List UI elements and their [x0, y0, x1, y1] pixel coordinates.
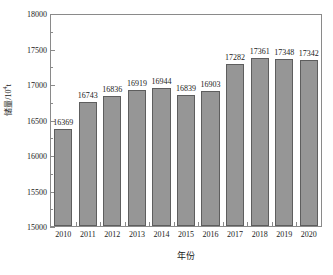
bar-value-label: 16836: [102, 85, 122, 94]
bar-group: 16836: [100, 15, 125, 226]
x-axis-tick-label: 2016: [191, 230, 231, 239]
y-axis-tick-label: 18000: [0, 10, 47, 19]
bar: [201, 91, 219, 226]
bar-value-label: 16944: [151, 77, 171, 86]
x-axis-tick-label: 2012: [92, 230, 132, 239]
y-axis-title: 储量/104t: [5, 65, 13, 135]
x-axis-title: 年份: [50, 249, 322, 262]
bar-group: 17342: [296, 15, 321, 226]
bar: [79, 102, 97, 226]
x-axis-tick-label: 2017: [215, 230, 255, 239]
bar: [128, 90, 146, 226]
x-axis-tick-label: 2011: [68, 230, 108, 239]
x-axis-tick-label: 2014: [141, 230, 181, 239]
x-axis-tick-label: 2013: [117, 230, 157, 239]
bars-layer: 1636916743168361691916944168391690317282…: [51, 15, 321, 226]
bar-group: 16944: [149, 15, 174, 226]
bar-value-label: 16369: [53, 118, 73, 127]
bar-value-label: 17342: [299, 49, 319, 58]
bar-value-label: 16839: [176, 84, 196, 93]
y-axis-tick-label: 16000: [0, 152, 47, 161]
bar-value-label: 16903: [201, 80, 221, 89]
x-axis-tick-label: 2015: [166, 230, 206, 239]
bar-value-label: 17282: [225, 53, 245, 62]
x-axis-tick-label: 2018: [240, 230, 280, 239]
bar: [251, 58, 269, 226]
x-axis-tick-label: 2019: [264, 230, 304, 239]
y-axis-tick-label: 17500: [0, 45, 47, 54]
bar: [300, 60, 318, 226]
bar-group: 16903: [198, 15, 223, 226]
x-axis-tick-label: 2010: [43, 230, 83, 239]
bar-value-label: 17361: [250, 47, 270, 56]
bar-group: 16369: [51, 15, 76, 226]
bar: [275, 59, 293, 226]
x-axis-tick-label: 2020: [289, 230, 329, 239]
y-axis-title-exponent: 4: [2, 87, 8, 90]
bar: [152, 88, 170, 226]
y-axis-tick-label: 15000: [0, 223, 47, 232]
bar-group: 17361: [247, 15, 272, 226]
y-axis-title-unit: t: [4, 84, 13, 86]
bar-group: 16839: [174, 15, 199, 226]
bar-group: 16743: [76, 15, 101, 226]
bar: [54, 129, 72, 226]
bar-group: 16919: [125, 15, 150, 226]
bar: [177, 95, 195, 226]
y-axis-title-text: 储量/10: [4, 90, 13, 116]
bar: [226, 64, 244, 226]
bar-value-label: 16919: [127, 79, 147, 88]
bar-group: 17348: [272, 15, 297, 226]
y-axis-tick-label: 15500: [0, 187, 47, 196]
bar-chart: 储量/104t 15000155001600016500170001750018…: [0, 0, 333, 275]
bar: [103, 96, 121, 226]
bar-value-label: 16743: [78, 91, 98, 100]
bar-group: 17282: [223, 15, 248, 226]
bar-value-label: 17348: [274, 48, 294, 57]
y-axis-tick: [50, 227, 55, 228]
